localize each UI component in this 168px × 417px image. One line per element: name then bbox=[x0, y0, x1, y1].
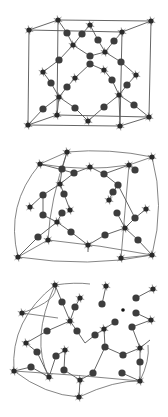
atom-node-icon bbox=[118, 369, 125, 376]
atom-node-icon bbox=[39, 211, 46, 218]
atom-node-icon bbox=[109, 188, 116, 195]
bond-line bbox=[57, 115, 149, 117]
junction-node-icon bbox=[66, 206, 74, 215]
atom-node-icon bbox=[94, 36, 101, 43]
atom-node-icon bbox=[39, 105, 46, 112]
junction-node-icon bbox=[51, 281, 59, 290]
atom-node-icon bbox=[108, 76, 115, 83]
bond-line bbox=[122, 21, 151, 32]
junction-node-icon bbox=[149, 285, 157, 294]
atom-node-icon bbox=[73, 327, 80, 334]
bond-line bbox=[120, 32, 122, 126]
atom-node-icon bbox=[71, 104, 78, 111]
bond-curve bbox=[121, 165, 129, 258]
atom-node-icon bbox=[111, 318, 118, 325]
atom-node-icon bbox=[60, 190, 67, 197]
atom-node-icon bbox=[34, 233, 41, 240]
bond-curve bbox=[129, 157, 152, 165]
atom-node-icon bbox=[132, 294, 139, 301]
atom-node-icon bbox=[91, 331, 98, 338]
atom-node-icon bbox=[78, 30, 85, 37]
atom-node-icon bbox=[113, 209, 120, 216]
bond-line bbox=[29, 20, 58, 30]
atom-node-icon bbox=[47, 79, 54, 86]
bond-line bbox=[149, 21, 151, 117]
junction-node-icon bbox=[142, 205, 150, 214]
atom-node-icon bbox=[110, 37, 117, 44]
junction-node-icon bbox=[86, 163, 94, 172]
atom-node-icon bbox=[86, 52, 93, 59]
atom-node-icon bbox=[123, 81, 130, 88]
atom-node-icon bbox=[119, 351, 126, 358]
atom-node-icon bbox=[136, 358, 143, 365]
bond-line bbox=[120, 117, 149, 126]
atom-node-icon bbox=[60, 366, 67, 373]
bond-curve bbox=[22, 313, 58, 318]
atom-node-icon bbox=[130, 101, 137, 108]
atom-node-icon bbox=[117, 58, 124, 65]
bond-curve bbox=[152, 157, 159, 255]
atom-node-icon bbox=[100, 170, 107, 177]
bond-curve bbox=[40, 152, 67, 164]
atom-node-icon bbox=[100, 103, 107, 110]
bond-curve bbox=[22, 285, 56, 313]
junction-node-icon bbox=[66, 317, 74, 326]
atom-node-icon bbox=[27, 363, 34, 370]
atom-node-icon bbox=[98, 300, 105, 307]
atom-node-icon bbox=[67, 228, 74, 235]
atom-node-icon bbox=[132, 309, 139, 316]
atom-node-icon bbox=[58, 209, 65, 216]
atom-node-icon bbox=[86, 60, 93, 67]
disordered-network-panel bbox=[10, 281, 157, 402]
atom-node-icon bbox=[101, 231, 108, 238]
atom-node-icon bbox=[55, 56, 62, 63]
bond-line bbox=[28, 30, 29, 125]
atom-node-icon bbox=[58, 298, 65, 305]
atom-node-icon bbox=[33, 348, 40, 355]
distorted-lattice-panel bbox=[14, 148, 159, 263]
bond-curve bbox=[55, 283, 90, 285]
bond-line bbox=[93, 347, 105, 373]
lattice-diagram-canvas bbox=[0, 0, 168, 417]
bond-curve bbox=[67, 151, 152, 157]
bond-line bbox=[28, 125, 120, 126]
atom-node-icon bbox=[114, 181, 121, 188]
bond-line bbox=[47, 321, 70, 331]
atom-node-icon bbox=[89, 369, 96, 376]
junction-node-icon bbox=[76, 294, 84, 303]
bond-curve bbox=[79, 381, 140, 397]
bond-line bbox=[40, 164, 74, 173]
atom-node-icon bbox=[63, 83, 70, 90]
junction-node-icon bbox=[147, 316, 155, 325]
atom-node-icon bbox=[131, 166, 138, 173]
junction-node-icon bbox=[53, 218, 61, 227]
ordered-cubic-lattice-panel bbox=[24, 16, 155, 131]
atom-node-icon bbox=[131, 214, 138, 221]
bond-line bbox=[58, 20, 151, 21]
junction-node-icon bbox=[22, 339, 30, 348]
lattice-figure bbox=[0, 0, 168, 417]
atom-node-icon bbox=[101, 343, 108, 350]
atom-node-icon bbox=[58, 165, 65, 172]
bond-line bbox=[57, 20, 58, 115]
atom-node-icon bbox=[134, 236, 141, 243]
atom-node-icon bbox=[128, 323, 135, 330]
atom-node-icon bbox=[52, 352, 59, 359]
junction-node-icon bbox=[18, 309, 26, 318]
bond-curve bbox=[18, 255, 152, 262]
atom-node-icon bbox=[43, 327, 50, 334]
junction-node-icon bbox=[105, 196, 113, 205]
atom-node-icon bbox=[71, 303, 78, 310]
junction-node-icon bbox=[102, 282, 110, 291]
bond-line bbox=[119, 95, 120, 126]
junction-node-icon bbox=[148, 153, 156, 162]
vacancy-dot-icon bbox=[121, 308, 125, 312]
atom-node-icon bbox=[63, 29, 70, 36]
bond-line bbox=[29, 30, 122, 32]
junction-node-icon bbox=[39, 68, 47, 77]
bond-line bbox=[26, 331, 47, 343]
atom-node-icon bbox=[39, 191, 46, 198]
bond-curve bbox=[14, 164, 40, 257]
atom-node-icon bbox=[70, 169, 77, 176]
